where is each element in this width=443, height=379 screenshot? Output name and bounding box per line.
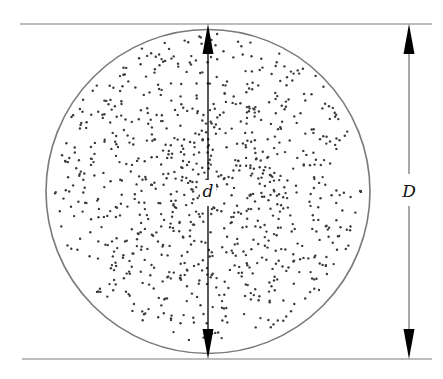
D-arrowhead-up-icon — [404, 24, 415, 54]
outer-distance-label: D — [401, 181, 416, 201]
d-arrowhead-down-icon — [203, 329, 214, 359]
particle-circle-diagram: d D — [0, 0, 443, 379]
inner-diameter-label: d — [203, 181, 214, 201]
D-arrowhead-down-icon — [404, 329, 415, 359]
outer-distance-dimension: D — [401, 24, 416, 359]
inner-diameter-dimension: d — [200, 24, 216, 359]
